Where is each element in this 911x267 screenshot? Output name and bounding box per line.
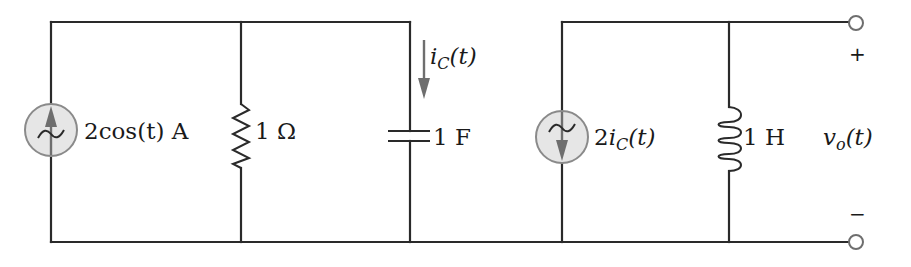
circuit-diagram: 2cos(t) A 1 Ω 1 F iC(t) 2iC(t) <box>0 0 911 267</box>
resistor-zigzag-icon <box>233 104 249 168</box>
source-label: 2cos(t) A <box>84 118 189 144</box>
capacitor-label: 1 F <box>433 124 471 150</box>
inductor <box>719 107 742 171</box>
dep-source-label: 2iC(t) <box>594 124 655 154</box>
inductor-label: 1 H <box>743 124 785 150</box>
arrow-down-icon <box>418 78 430 99</box>
minus-sign: − <box>849 202 866 226</box>
output-terminal-negative[interactable] <box>849 235 863 249</box>
inductor-coil-icon <box>719 107 742 171</box>
ac-current-source <box>25 104 77 156</box>
capacitor-current-indicator <box>418 40 430 99</box>
resistor-label: 1 Ω <box>255 118 296 144</box>
plus-sign: + <box>849 42 866 66</box>
resistor <box>233 104 249 168</box>
dependent-current-source <box>536 111 588 163</box>
output-voltage-label: vo(t) <box>823 124 873 154</box>
output-terminal-positive[interactable] <box>849 16 863 30</box>
capacitor <box>388 131 430 141</box>
capacitor-current-label: iC(t) <box>430 43 477 73</box>
